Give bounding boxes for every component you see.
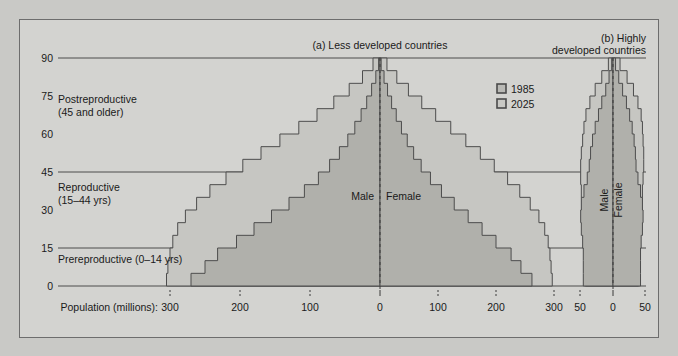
x-tick-label: 300 [161, 301, 179, 313]
x-tick-label: 100 [301, 301, 319, 313]
category-label: Postreproductive [58, 93, 137, 105]
y-axis-label: 60 [41, 128, 53, 140]
x-tick-label: 0 [377, 301, 383, 313]
category-label: Prereproductive (0–14 yrs) [58, 253, 182, 265]
panel-b-title: (b) Highly [601, 32, 647, 44]
x-tick-label: 0 [610, 301, 616, 313]
chart-plot-area: 0153045607590 Population (millions):3002… [20, 20, 658, 337]
x-axis-title: Population (millions): [61, 301, 158, 313]
y-axis-label: 90 [41, 52, 53, 64]
panel-titles: (a) Less developed countries(b) Highlyde… [313, 32, 647, 56]
x-tick-label: 200 [487, 301, 505, 313]
female-label: Female [386, 190, 421, 202]
category-labels: Postreproductive(45 and older)Reproducti… [58, 93, 182, 265]
category-label: (45 and older) [58, 106, 123, 118]
legend-label: 1985 [511, 83, 535, 95]
x-tick-label: 300 [545, 301, 563, 313]
male-label: Male [598, 188, 610, 211]
y-axis-labels: 0153045607590 [41, 52, 53, 292]
legend-group: 19852025 [497, 83, 535, 110]
legend-swatch [497, 84, 506, 93]
male-label: Male [351, 190, 374, 202]
population-pyramid-svg: 0153045607590 Population (millions):3002… [20, 20, 658, 337]
x-tick-label: 100 [429, 301, 447, 313]
x-axis-labels: Population (millions):300200100010020030… [61, 301, 651, 313]
category-label: (15–44 yrs) [58, 194, 111, 206]
panel-b-title: developed countries [552, 44, 646, 56]
y-axis-label: 45 [41, 166, 53, 178]
legend-swatch [497, 99, 506, 108]
figure-frame: 0153045607590 Population (millions):3002… [19, 19, 659, 338]
y-axis-label: 75 [41, 90, 53, 102]
y-axis-label: 30 [41, 204, 53, 216]
panel-b-areas [581, 58, 644, 286]
legend-label: 2025 [511, 98, 535, 110]
female-label: Female [612, 182, 624, 217]
x-tick-label: 50 [574, 301, 586, 313]
panel-a-title: (a) Less developed countries [313, 39, 448, 51]
y-axis-label: 0 [47, 280, 53, 292]
x-tick-marks [170, 290, 645, 298]
y-axis-label: 15 [41, 242, 53, 254]
x-tick-label: 200 [231, 301, 249, 313]
category-label: Reproductive [58, 181, 120, 193]
x-tick-label: 50 [639, 301, 651, 313]
